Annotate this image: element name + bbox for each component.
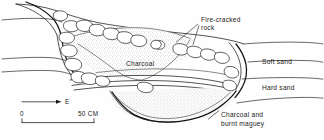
scale-start-label: 0 xyxy=(20,110,24,117)
label-fire-cracked-rock-line2: rock xyxy=(201,24,215,31)
label-fire-cracked-rock-line1: Fire-cracked xyxy=(201,16,241,23)
direction-arrow xyxy=(22,100,62,104)
label-soft-sand: Soft sand xyxy=(262,58,292,65)
label-charcoal-maguey-line1: Charcoal and xyxy=(221,111,263,118)
fire-cracked-rock-cluster-right xyxy=(223,66,239,90)
label-charcoal-maguey-line2: burnt maguey xyxy=(221,120,265,128)
stratigraphy-right xyxy=(237,42,323,103)
label-charcoal: Charcoal xyxy=(126,60,155,67)
scale-bar xyxy=(22,119,94,123)
cross-section-figure: Fire-cracked rock Charcoal Soft sand Har… xyxy=(0,0,324,140)
stratigraphy-left xyxy=(2,18,72,75)
cross-section-drawing: Fire-cracked rock Charcoal Soft sand Har… xyxy=(0,0,324,140)
label-direction-east: E xyxy=(65,98,70,105)
label-hard-sand: Hard sand xyxy=(262,84,295,91)
fire-cracked-rock-isolated xyxy=(151,40,161,49)
scale-end-label: 50 CM xyxy=(78,110,98,117)
